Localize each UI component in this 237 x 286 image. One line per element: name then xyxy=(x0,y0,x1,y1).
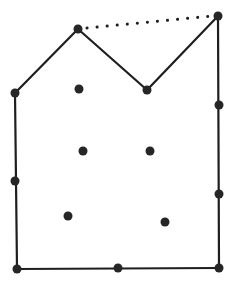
boundary-lattice-point xyxy=(215,190,224,199)
polygon-edge xyxy=(78,29,147,90)
interior-lattice-point xyxy=(79,147,88,156)
polygon-edge xyxy=(218,16,219,268)
boundary-lattice-point xyxy=(11,89,20,98)
interior-points xyxy=(64,85,170,227)
boundary-points xyxy=(11,12,224,274)
boundary-lattice-point xyxy=(143,86,152,95)
interior-lattice-point xyxy=(146,147,155,156)
polygon-edges xyxy=(15,16,219,269)
boundary-lattice-point xyxy=(114,264,123,273)
interior-lattice-point xyxy=(75,85,84,94)
boundary-lattice-point xyxy=(13,265,22,274)
interior-lattice-point xyxy=(161,218,170,227)
lattice-polygon-diagram xyxy=(0,0,237,286)
polygon-edge xyxy=(15,29,78,93)
boundary-lattice-point xyxy=(11,177,20,186)
interior-lattice-point xyxy=(64,212,73,221)
boundary-lattice-point xyxy=(214,12,223,21)
polygon-edge xyxy=(147,16,218,90)
boundary-lattice-point xyxy=(215,101,224,110)
boundary-lattice-point xyxy=(215,264,224,273)
boundary-lattice-point xyxy=(74,25,83,34)
dotted-segment xyxy=(87,16,212,28)
